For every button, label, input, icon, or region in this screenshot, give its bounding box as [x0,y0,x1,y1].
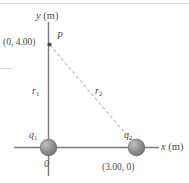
origin-label: 0 [44,159,49,169]
point-p-marker [47,42,51,46]
point-p-label: P [57,32,63,42]
y-axis-label: y (m) [36,11,58,22]
charge-q2-label: q2 [124,130,132,141]
r2-distance-label: r2 [95,86,102,97]
r1-distance-label: r1 [32,86,39,97]
x-axis-label-unit: (m) [168,141,183,152]
r2-subscript: 2 [99,90,102,97]
point-p-coordinate-label: (0, 4.00) [3,38,35,48]
y-axis-label-unit: (m) [43,10,58,21]
x-axis-label: x (m) [161,142,183,153]
charge-q2-coordinate-label: (3.00, 0) [102,163,134,173]
physics-diagram-figure: y (m) x (m) (0, 4.00) P r1 r2 q1 q2 0 (3… [0,0,189,183]
charge-q1-label: q1 [29,130,37,141]
q1-subscript: 1 [34,134,37,141]
r1-subscript: 1 [36,90,39,97]
q2-subscript: 2 [129,134,132,141]
